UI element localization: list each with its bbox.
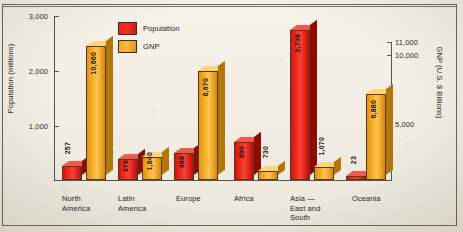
left-tick-label-2000: 2,000 — [14, 67, 48, 76]
category-label-latin-america: Latin America — [118, 194, 146, 213]
bar-value-population-europe: 488 — [178, 156, 185, 168]
legend-item-gnp: GNP — [118, 40, 179, 53]
bar-population-oceania — [346, 176, 366, 180]
legend-label-population: Population — [143, 24, 179, 33]
bar-value-gnp-africa: 730 — [262, 146, 269, 158]
bar-value-gnp-oceania: 6,880 — [370, 100, 377, 119]
bar-value-population-asia: 2,738 — [294, 34, 301, 53]
left-tick-1000 — [54, 126, 59, 127]
bar-value-population-oceania: 23 — [350, 156, 357, 164]
legend-swatch-gnp-icon — [118, 40, 137, 53]
bar-value-population-north-america: 257 — [64, 142, 71, 154]
legend-item-population: Population — [118, 22, 179, 35]
bar-front-face — [346, 176, 366, 180]
right-axis-title: GNP (U.S. $ Billions) — [435, 47, 444, 119]
left-axis-title: Population (millions) — [6, 44, 15, 114]
category-label-europe: Europe — [176, 194, 201, 204]
category-label-oceania: Oceania — [352, 194, 381, 204]
category-label-africa: Africa — [234, 194, 254, 204]
bar-side-face — [386, 84, 393, 175]
right-tick-label-10000: 10,000 — [395, 51, 419, 60]
left-tick-2000 — [54, 71, 59, 72]
chart-top-rule — [3, 6, 456, 7]
bar-front-face — [62, 166, 82, 180]
left-tick-label-1000: 1,000 — [14, 122, 48, 131]
chart-legend: Population GNP — [118, 22, 179, 58]
right-tick-label-5000: 5,000 — [395, 120, 414, 129]
right-tick-10000 — [387, 55, 392, 56]
left-tick-3000 — [54, 16, 59, 17]
bar-value-gnp-north-america: 10,660 — [90, 52, 97, 75]
bar-value-gnp-latin-america: 1,840 — [146, 152, 153, 171]
bar-gnp-asia — [314, 167, 334, 180]
right-tick-label-11000: 11,000 — [395, 38, 418, 47]
bar-side-face — [218, 61, 225, 175]
bar-value-gnp-asia: 1,070 — [318, 137, 325, 156]
bar-gnp-africa — [258, 171, 278, 180]
right-tick-11000 — [387, 42, 392, 43]
left-y-axis-line — [54, 16, 55, 180]
legend-swatch-population-icon — [118, 22, 137, 35]
bar-population-north-america — [62, 166, 82, 180]
bar-value-population-africa: 690 — [238, 146, 245, 158]
left-tick-label-3000: 3,000 — [14, 12, 48, 21]
chart-screenshot: 3,000 2,000 1,000 Population (millions) … — [0, 0, 463, 232]
bar-side-face — [310, 20, 317, 175]
bar-value-population-latin-america: 378 — [122, 160, 129, 172]
legend-label-gnp: GNP — [143, 42, 160, 51]
category-label-north-america: North America — [62, 194, 90, 213]
bar-side-face — [106, 36, 113, 175]
bar-front-face — [258, 171, 278, 180]
category-label-asia: Asia — East and South — [290, 194, 320, 223]
x-axis-line — [54, 180, 392, 181]
bar-front-face — [314, 167, 334, 180]
bar-value-gnp-europe: 8,670 — [202, 78, 209, 97]
